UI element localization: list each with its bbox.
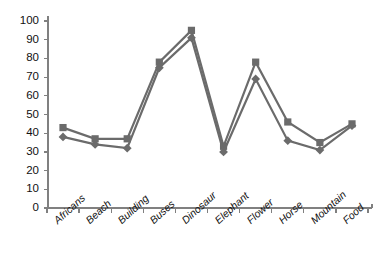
line-chart: 0102030405060708090100 AfricansBeachBuil…: [0, 0, 391, 277]
series-2-diamond-marker: [123, 144, 132, 153]
series-1-line: [63, 30, 352, 146]
chart-plot-area: [0, 0, 391, 277]
series-2-diamond-marker: [251, 75, 260, 84]
series-1-square-marker: [284, 118, 291, 125]
series-1-square-marker: [188, 27, 195, 34]
chart-series: [59, 27, 357, 157]
series-2-diamond-marker: [59, 133, 68, 142]
series-1-group: [59, 27, 355, 150]
series-2-diamond-marker: [283, 136, 292, 145]
series-1-square-marker: [59, 124, 66, 131]
series-1-square-marker: [252, 59, 259, 66]
series-1-square-marker: [316, 139, 323, 146]
chart-axes: [44, 16, 372, 213]
